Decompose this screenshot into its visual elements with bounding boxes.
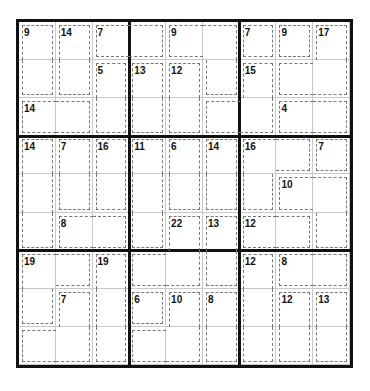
grid-cell[interactable]: [203, 60, 240, 98]
cage-border: [52, 60, 54, 95]
cage-sum-clue: 10: [281, 180, 292, 190]
grid-cell[interactable]: [203, 98, 240, 136]
grid-cell[interactable]: [19, 327, 56, 365]
cage-border: [169, 98, 171, 133]
cage-border: [162, 139, 164, 174]
cage-sum-clue: 9: [171, 28, 177, 38]
grid-cell[interactable]: [129, 213, 166, 251]
grid-cell[interactable]: [313, 327, 350, 365]
cage-border: [132, 174, 134, 212]
grid-cell[interactable]: [276, 60, 313, 98]
cage-border: [279, 56, 310, 58]
cage-border: [276, 247, 310, 249]
grid-cell[interactable]: [203, 327, 240, 365]
cage-border: [52, 213, 54, 248]
grid-cell[interactable]: [240, 98, 277, 136]
cage-border: [309, 292, 311, 327]
grid-cell[interactable]: [203, 22, 240, 60]
cage-border: [276, 170, 310, 172]
cage-border: [279, 94, 313, 96]
grid-cell[interactable]: [240, 327, 277, 365]
grid-cell[interactable]: [276, 327, 313, 365]
cage-border: [22, 94, 53, 96]
cage-sum-clue: 8: [281, 257, 287, 267]
grid-cell[interactable]: [93, 327, 130, 365]
grid-cell[interactable]: [203, 251, 240, 289]
cage-border: [96, 209, 127, 211]
cage-sum-clue: 14: [24, 104, 35, 114]
grid-cell[interactable]: [240, 289, 277, 327]
grid-cell[interactable]: [129, 22, 166, 60]
grid-cell[interactable]: [56, 98, 93, 136]
cage-border: [162, 174, 164, 212]
box-divider-vertical: [128, 22, 131, 365]
cage-sum-clue: 19: [24, 257, 35, 267]
grid-cell[interactable]: [313, 60, 350, 98]
cage-border: [96, 361, 127, 363]
cage-border: [132, 361, 166, 363]
cage-border: [346, 60, 348, 95]
cage-sum-clue: 9: [281, 28, 287, 38]
grid-cell[interactable]: [56, 60, 93, 98]
cage-border: [199, 292, 201, 327]
cage-sum-clue: 13: [134, 66, 145, 76]
grid-cell[interactable]: [313, 251, 350, 289]
grid-cell[interactable]: [313, 98, 350, 136]
grid-cell[interactable]: [166, 251, 203, 289]
box-divider-horizontal: [19, 135, 350, 138]
cage-border: [162, 213, 164, 248]
cage-border: [272, 25, 274, 57]
cage-sum-clue: 14: [24, 142, 35, 152]
grid-cell[interactable]: [203, 174, 240, 212]
grid-cell[interactable]: [19, 174, 56, 212]
grid-cell[interactable]: [19, 60, 56, 98]
grid-cell[interactable]: [129, 174, 166, 212]
grid-cell[interactable]: [129, 251, 166, 289]
grid-cell[interactable]: [93, 174, 130, 212]
grid-cell[interactable]: [313, 174, 350, 212]
grid-cell[interactable]: [19, 289, 56, 327]
cage-border: [236, 25, 238, 60]
grid-cell[interactable]: [166, 98, 203, 136]
cage-border: [199, 327, 201, 362]
grid-cell[interactable]: [240, 174, 277, 212]
cage-border: [206, 101, 208, 133]
cage-border: [243, 361, 274, 363]
grid-cell[interactable]: [129, 98, 166, 136]
cage-sum-clue: 13: [318, 295, 329, 305]
grid-cell[interactable]: [129, 327, 166, 365]
cage-border: [132, 213, 134, 248]
grid-cell[interactable]: [166, 174, 203, 212]
cage-border: [309, 139, 311, 171]
cage-border: [166, 361, 200, 363]
cage-sum-clue: 12: [245, 219, 256, 229]
cage-border: [236, 292, 238, 327]
grid-cell[interactable]: [276, 213, 313, 251]
cage-sum-clue: 14: [61, 28, 72, 38]
grid-cell[interactable]: [19, 213, 56, 251]
cage-border: [125, 327, 127, 362]
grid-cell[interactable]: [56, 327, 93, 365]
cage-border: [206, 60, 208, 95]
grid-cell[interactable]: [56, 174, 93, 212]
cage-border: [56, 101, 90, 103]
cage-border: [22, 60, 24, 95]
cage-border: [59, 174, 61, 209]
cage-border: [52, 25, 54, 60]
grid-cell[interactable]: [93, 289, 130, 327]
grid-cell[interactable]: [276, 136, 313, 174]
cage-border: [236, 139, 238, 174]
cage-border: [22, 213, 24, 248]
cage-border: [96, 98, 98, 133]
grid-cell[interactable]: [166, 327, 203, 365]
cage-border: [316, 213, 318, 248]
cage-border: [346, 327, 348, 362]
grid-cell[interactable]: [56, 251, 93, 289]
grid-cell[interactable]: [93, 213, 130, 251]
cage-border: [272, 254, 274, 289]
cage-sum-clue: 7: [318, 142, 324, 152]
grid-cell[interactable]: [313, 213, 350, 251]
grid-cell[interactable]: [93, 98, 130, 136]
cage-border: [243, 174, 245, 209]
cage-border: [162, 25, 164, 57]
